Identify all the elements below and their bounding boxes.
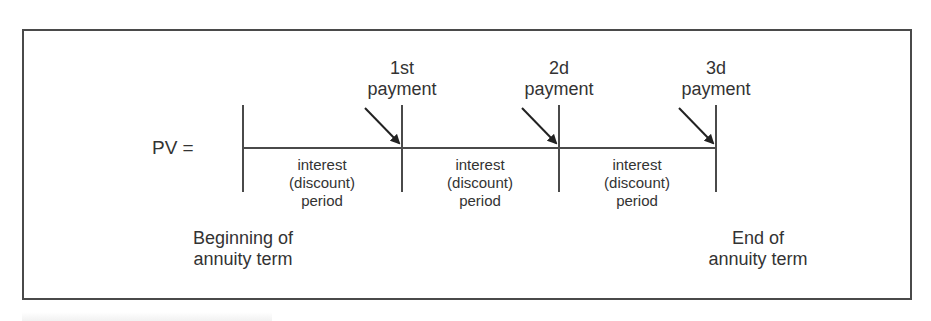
cropped-caption: [22, 312, 272, 321]
arrow-payment-2: [522, 108, 556, 143]
arrow-payment-3: [679, 108, 713, 143]
end-of-term-label: End of annuity term: [708, 228, 807, 270]
period-label-1: interest (discount) period: [289, 156, 355, 210]
payment-label-2: 2d payment: [524, 58, 593, 100]
payment-label-3: 3d payment: [681, 58, 750, 100]
payment-label-1: 1st payment: [367, 58, 436, 100]
pv-label: PV =: [152, 137, 194, 159]
period-label-3: interest (discount) period: [604, 156, 670, 210]
period-label-2: interest (discount) period: [447, 156, 513, 210]
start-of-term-label: Beginning of annuity term: [193, 228, 293, 270]
arrow-payment-1: [365, 108, 399, 143]
